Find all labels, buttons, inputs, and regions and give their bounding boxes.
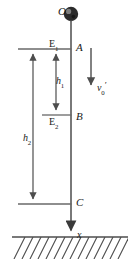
label-height-h1: h1 (56, 76, 64, 89)
diagram-canvas (0, 0, 137, 264)
label-axis-x: x (77, 230, 81, 240)
label-energy-level-e2: E2 (49, 117, 59, 130)
label-point-a: A (76, 42, 83, 53)
label-height-h2: h2 (23, 133, 31, 146)
ground-hatching (14, 237, 129, 259)
label-energy-level-e1: E1 (49, 39, 59, 52)
label-origin-o: O (58, 6, 66, 17)
label-point-c: C (76, 197, 83, 208)
physics-diagram-figure: O E1 A h1 v0′ B E2 h2 C x (0, 0, 137, 264)
label-point-b: B (76, 111, 83, 122)
label-initial-velocity: v0′ (97, 83, 107, 96)
